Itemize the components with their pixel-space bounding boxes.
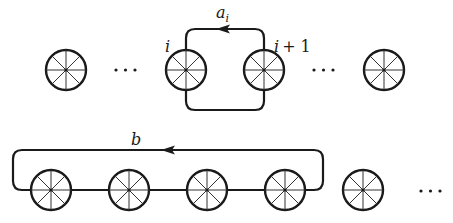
label-i-plus-1: i+ 1 bbox=[274, 37, 311, 56]
top-row: i i+ 1 ai bbox=[46, 3, 404, 90]
label-a: a bbox=[216, 3, 226, 22]
wheel-i-plus-1-icon bbox=[244, 50, 284, 90]
wheel-i-icon bbox=[166, 50, 206, 90]
wheel-icon bbox=[109, 170, 149, 210]
wheel-icon bbox=[343, 170, 383, 210]
ellipsis-left bbox=[114, 68, 136, 71]
label-a-sub: i bbox=[226, 12, 230, 25]
wheel-icon bbox=[31, 170, 71, 210]
wheel-icon bbox=[187, 170, 227, 210]
label-i-plus-1-rest: + 1 bbox=[282, 37, 311, 56]
wheel-icon bbox=[46, 50, 86, 90]
wheel-icon bbox=[265, 170, 305, 210]
label-i: i bbox=[165, 37, 170, 56]
ellipsis-right bbox=[312, 68, 334, 71]
label-b: b bbox=[131, 130, 141, 149]
label-i-plus-1-var: i bbox=[274, 37, 279, 56]
wheel-icon bbox=[364, 50, 404, 90]
ellipsis-bottom bbox=[419, 189, 441, 192]
diagram-canvas: i i+ 1 ai b bbox=[0, 0, 453, 223]
label-a-i: ai bbox=[216, 3, 229, 25]
